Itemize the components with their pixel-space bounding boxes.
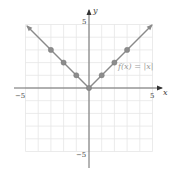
data-point	[99, 73, 104, 78]
x-min-tick-label: −5	[15, 92, 25, 100]
x-max-tick-label: 5	[150, 92, 154, 100]
data-point	[61, 60, 66, 65]
x-axis-label: x	[163, 88, 168, 97]
y-axis-label: y	[92, 6, 98, 15]
absolute-value-graph: x y −5 5 5 −5 f(x) = |x|	[0, 0, 175, 174]
function-label: f(x) = |x|	[117, 62, 153, 71]
data-point	[86, 85, 91, 90]
data-point	[74, 73, 79, 78]
data-point	[112, 60, 117, 65]
data-point	[48, 47, 53, 52]
y-min-tick-label: −5	[76, 151, 86, 159]
y-max-tick-label: 5	[82, 18, 86, 26]
data-point	[125, 47, 130, 52]
